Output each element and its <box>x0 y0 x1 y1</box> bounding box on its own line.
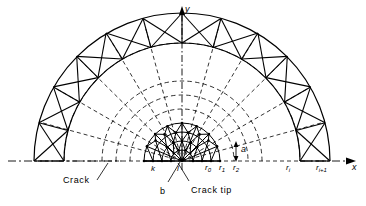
crack-tip-label: Crack tip <box>191 186 232 195</box>
ri-sub: i <box>289 167 290 173</box>
alpha-label: a <box>241 145 246 154</box>
b-label: b <box>160 187 165 196</box>
ri-label: ri <box>286 164 290 173</box>
callout-leader-lines <box>97 162 189 182</box>
alpha-angle-indicator <box>234 141 239 162</box>
l-label: l <box>177 165 179 173</box>
ri1-label: ri+1 <box>316 164 327 173</box>
mesh-diagram-svg <box>0 0 366 206</box>
r1-sub: 1 <box>222 167 225 173</box>
r2-label: r2 <box>233 164 239 173</box>
k-label: k <box>151 165 155 173</box>
r0-label: r0 <box>205 164 211 173</box>
inner-core-diagonals <box>144 123 217 161</box>
x-axis-label: x <box>352 163 357 172</box>
crack-label: Crack <box>63 176 90 185</box>
inner-core-mesh <box>143 122 222 163</box>
r1-label: r1 <box>219 164 225 173</box>
y-axis-label: y <box>185 5 190 14</box>
figure-container: y x Crack b Crack tip a k l r0 r1 r2 ri … <box>0 0 366 206</box>
ri1-sub: i+1 <box>319 167 327 173</box>
r0-sub: 0 <box>208 167 211 173</box>
r2-sub: 2 <box>236 167 239 173</box>
